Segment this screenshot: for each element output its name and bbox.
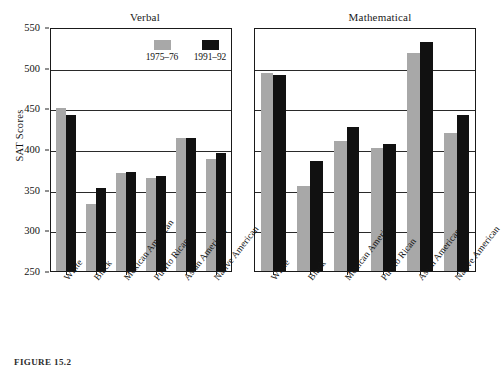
y-tick-mark-300 bbox=[45, 231, 49, 232]
x-tick-mark bbox=[273, 272, 274, 275]
x-tick-mark bbox=[96, 272, 97, 275]
x-tick-mark bbox=[156, 272, 157, 275]
x-tick-mark bbox=[347, 272, 348, 275]
legend: 1975–76 1991–92 bbox=[140, 40, 232, 70]
legend-swatch-1991-icon bbox=[202, 40, 219, 50]
y-tick-label-450: 450 bbox=[10, 104, 40, 115]
y-tick-mark-400 bbox=[45, 150, 49, 151]
y-tick-mark-500 bbox=[45, 68, 49, 69]
bar bbox=[334, 141, 347, 271]
bar bbox=[261, 73, 274, 271]
bar-group bbox=[292, 29, 329, 271]
x-tick-mark bbox=[126, 272, 127, 275]
plot-area-mathematical bbox=[255, 29, 475, 271]
bar-group bbox=[402, 29, 439, 271]
bar bbox=[273, 75, 286, 271]
x-tick-mark bbox=[66, 272, 67, 275]
y-tick-label-300: 300 bbox=[10, 226, 40, 237]
panel-title-verbal: Verbal bbox=[55, 11, 235, 23]
legend-item-1991: 1991–92 bbox=[188, 40, 232, 62]
bar bbox=[297, 186, 310, 271]
x-tick-mark bbox=[383, 272, 384, 275]
bar bbox=[126, 172, 136, 271]
x-tick-mark bbox=[420, 272, 421, 275]
x-tick-mark bbox=[310, 272, 311, 275]
y-tick-mark-250 bbox=[45, 272, 49, 273]
bar bbox=[216, 153, 226, 271]
legend-swatch-1975-icon bbox=[154, 40, 171, 50]
legend-label-1975: 1975–76 bbox=[140, 52, 184, 62]
x-tick-mark bbox=[457, 272, 458, 275]
y-tick-mark-350 bbox=[45, 190, 49, 191]
bar-group bbox=[81, 29, 111, 271]
y-tick-label-350: 350 bbox=[10, 185, 40, 196]
legend-item-1975: 1975–76 bbox=[140, 40, 184, 62]
y-tick-label-500: 500 bbox=[10, 63, 40, 74]
bar bbox=[186, 138, 196, 271]
y-axis-ticks: 250300350400450500550 bbox=[0, 0, 48, 368]
bar bbox=[457, 115, 470, 271]
y-tick-mark-550 bbox=[45, 28, 49, 29]
y-tick-mark-450 bbox=[45, 109, 49, 110]
bar bbox=[56, 108, 66, 271]
y-tick-label-550: 550 bbox=[10, 23, 40, 34]
bar bbox=[66, 115, 76, 271]
bar-group bbox=[255, 29, 292, 271]
bar-group bbox=[51, 29, 81, 271]
x-tick-mark bbox=[186, 272, 187, 275]
legend-label-1991: 1991–92 bbox=[188, 52, 232, 62]
bar bbox=[116, 173, 126, 271]
bar bbox=[347, 127, 360, 271]
bar-group bbox=[328, 29, 365, 271]
bar bbox=[310, 161, 323, 271]
figure-caption: FIGURE 15.2 bbox=[14, 357, 71, 367]
bar bbox=[383, 144, 396, 271]
bar bbox=[420, 42, 433, 271]
plot-panel-mathematical bbox=[254, 28, 476, 272]
panel-title-mathematical: Mathematical bbox=[285, 11, 475, 23]
bar-group bbox=[111, 29, 141, 271]
y-tick-label-400: 400 bbox=[10, 145, 40, 156]
bar bbox=[86, 204, 96, 271]
x-tick-mark bbox=[216, 272, 217, 275]
y-tick-label-250: 250 bbox=[10, 267, 40, 278]
